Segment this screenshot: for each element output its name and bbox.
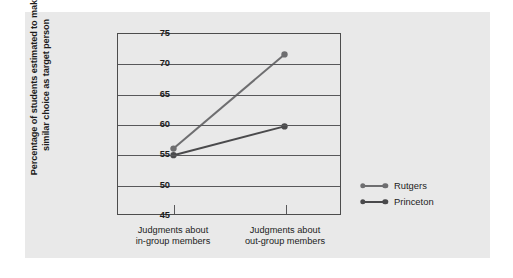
- legend-label: Rutgers: [394, 180, 427, 191]
- legend-swatch-icon: [360, 181, 388, 190]
- x-tick-mark: [174, 205, 175, 214]
- data-point-rutgers: [281, 51, 287, 57]
- y-tick-label: 65: [140, 89, 170, 99]
- legend-label: Princeton: [394, 196, 434, 207]
- chart-panel: Percentage of students estimated to make…: [25, 12, 490, 258]
- chart-legend: RutgersPrinceton: [360, 180, 434, 207]
- x-tick-label: Judgments aboutin-group members: [108, 225, 238, 248]
- y-tick-label: 70: [140, 58, 170, 68]
- series-line-princeton: [174, 126, 285, 155]
- y-tick-label: 75: [140, 28, 170, 38]
- y-tick-label: 45: [140, 210, 170, 220]
- x-tick-label-line: out-group members: [220, 236, 350, 247]
- legend-swatch-icon: [360, 197, 388, 206]
- x-tick-mark: [286, 205, 287, 214]
- x-tick-label-line: in-group members: [108, 236, 238, 247]
- data-point-rutgers: [170, 145, 176, 151]
- series-line-rutgers: [174, 54, 285, 148]
- y-tick-label: 60: [140, 119, 170, 129]
- y-axis-title: Percentage of students estimated to make…: [24, 0, 58, 190]
- y-tick-label: 55: [140, 149, 170, 159]
- x-tick-label: Judgments aboutout-group members: [220, 225, 350, 248]
- y-tick-label: 50: [140, 180, 170, 190]
- legend-item-rutgers: Rutgers: [360, 180, 434, 191]
- legend-item-princeton: Princeton: [360, 196, 434, 207]
- x-tick-label-line: Judgments about: [108, 225, 238, 236]
- x-tick-label-line: Judgments about: [220, 225, 350, 236]
